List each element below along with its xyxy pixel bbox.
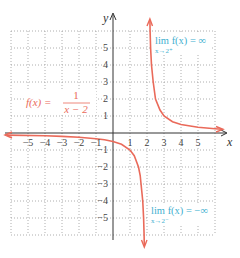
- chart-svg: −5 −4 −3 −2 −1 1 2 3 4 5 5 4 3 2 1 −1 −2…: [0, 0, 240, 258]
- y-tick: 4: [103, 59, 108, 70]
- y-tick: −5: [97, 212, 108, 223]
- curve-left-branch: [7, 135, 144, 246]
- equation-lhs: f(x) =: [26, 96, 51, 109]
- x-tick: 5: [196, 137, 201, 148]
- y-tick: 5: [103, 42, 108, 53]
- x-tick: 1: [128, 137, 133, 148]
- y-tick: −3: [97, 178, 108, 189]
- limit-bottom-text: lim f(x) = −∞: [151, 205, 208, 217]
- limit-annotation-bottom: lim f(x) = −∞ x→2⁻: [148, 203, 214, 225]
- y-tick: 3: [103, 76, 108, 87]
- y-tick: −1: [97, 144, 108, 155]
- x-tick-labels: −5 −4 −3 −2 −1 1 2 3 4 5: [23, 137, 201, 148]
- limit-annotation-top: lim f(x) = ∞ x→2⁺: [152, 33, 212, 55]
- function-label: f(x) = 1 x − 2: [24, 89, 96, 115]
- y-tick: 1: [103, 110, 108, 121]
- x-tick: −2: [74, 137, 85, 148]
- x-tick: −3: [57, 137, 68, 148]
- x-tick: 4: [179, 137, 184, 148]
- equation-numerator: 1: [73, 89, 79, 101]
- y-tick: 2: [103, 93, 108, 104]
- limit-top-text: lim f(x) = ∞: [155, 35, 206, 47]
- limit-top-subscript: x→2⁺: [155, 47, 173, 55]
- equation-denominator: x − 2: [63, 103, 88, 115]
- x-axis-label: x: [226, 135, 233, 149]
- limit-bottom-subscript: x→2⁻: [151, 217, 169, 225]
- y-tick: −4: [97, 195, 108, 206]
- x-tick: −4: [40, 137, 51, 148]
- x-tick: 3: [162, 137, 167, 148]
- y-tick: −2: [97, 161, 108, 172]
- x-tick: 2: [145, 137, 150, 148]
- y-axis-label: y: [102, 11, 109, 25]
- x-tick: −5: [23, 137, 34, 148]
